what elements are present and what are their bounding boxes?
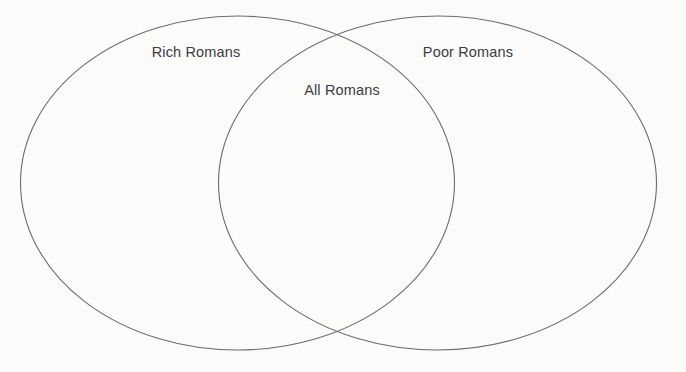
venn-circle-left[interactable] (21, 16, 455, 350)
venn-canvas: Rich Romans All Romans Poor Romans (0, 0, 686, 372)
venn-label-left: Rich Romans (152, 44, 241, 60)
venn-label-intersection: All Romans (304, 82, 380, 98)
venn-label-right: Poor Romans (423, 44, 513, 60)
venn-diagram: Rich Romans All Romans Poor Romans (0, 0, 686, 372)
venn-circle-right[interactable] (219, 16, 657, 350)
